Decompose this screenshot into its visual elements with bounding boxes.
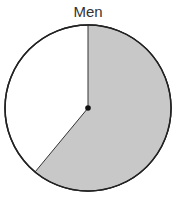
center-dot <box>85 105 91 111</box>
pie-chart <box>0 0 186 206</box>
